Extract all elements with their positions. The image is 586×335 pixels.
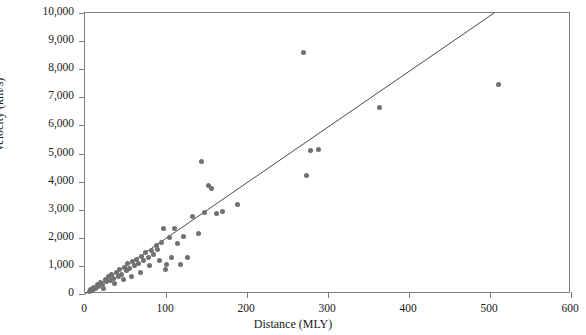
x-axis-tick-label: 500: [459, 303, 519, 315]
y-axis-tick-label: 5,000: [2, 147, 74, 159]
plot-area: [85, 13, 569, 292]
y-axis-tick-label: 3,000: [2, 203, 74, 215]
x-axis-tick-label: 300: [297, 303, 357, 315]
y-axis-tick-label: 7,000: [2, 90, 74, 102]
data-point: [138, 270, 143, 275]
y-axis-tick-label: 8,000: [2, 62, 74, 74]
data-point: [129, 274, 134, 279]
data-point: [172, 226, 177, 231]
data-point: [214, 211, 219, 216]
y-axis-tick: [79, 97, 85, 98]
y-axis-tick: [79, 125, 85, 126]
x-axis-tick-label: 100: [135, 303, 195, 315]
y-axis-tick-label: 4,000: [2, 175, 74, 187]
data-point: [121, 277, 126, 282]
y-axis-tick: [79, 182, 85, 183]
y-axis-tick: [79, 238, 85, 239]
data-point: [220, 209, 225, 214]
y-axis-tick-label: 2,000: [2, 231, 74, 243]
x-axis-tick: [490, 292, 491, 298]
x-axis-tick-label: 600: [540, 303, 586, 315]
data-point: [146, 255, 151, 260]
x-axis-tick-label: 400: [378, 303, 438, 315]
plot-frame: [84, 12, 570, 293]
data-point: [167, 235, 172, 240]
data-point: [377, 105, 382, 110]
data-point: [101, 286, 106, 291]
x-axis-tick: [247, 292, 248, 298]
regression-line: [85, 13, 571, 294]
y-axis-tick: [79, 13, 85, 14]
data-point: [155, 247, 160, 252]
x-axis-tick: [409, 292, 410, 298]
data-point: [196, 231, 201, 236]
y-axis-tick: [79, 41, 85, 42]
data-point: [316, 147, 321, 152]
data-point: [185, 255, 190, 260]
y-axis-tick: [79, 266, 85, 267]
y-axis-tick-label: 1,000: [2, 259, 74, 271]
y-axis-tick-label: 6,000: [2, 118, 74, 130]
x-axis-tick: [328, 292, 329, 298]
y-axis-tick: [79, 294, 85, 295]
data-point: [235, 202, 240, 207]
x-axis-tick: [571, 292, 572, 298]
y-axis-title: Velocity (km/s): [0, 78, 7, 152]
y-axis-tick: [79, 210, 85, 211]
data-point: [209, 186, 214, 191]
y-axis-tick: [79, 154, 85, 155]
figure: Velocity (km/s) 01,0002,0003,0004,0005,0…: [0, 0, 586, 335]
x-axis-tick-label: 200: [216, 303, 276, 315]
data-point: [163, 267, 168, 272]
x-axis-title: Distance (MLY): [0, 317, 586, 332]
data-point: [151, 252, 156, 257]
data-point: [496, 82, 501, 87]
y-axis-tick-label: 10,000: [2, 6, 74, 18]
y-axis-tick: [79, 69, 85, 70]
data-point: [301, 50, 306, 55]
x-axis-tick-label: 0: [54, 303, 114, 315]
y-axis-tick-label: 0: [2, 287, 74, 299]
y-axis-tick-label: 9,000: [2, 34, 74, 46]
data-point: [308, 148, 313, 153]
data-point: [161, 226, 166, 231]
x-axis-tick: [166, 292, 167, 298]
